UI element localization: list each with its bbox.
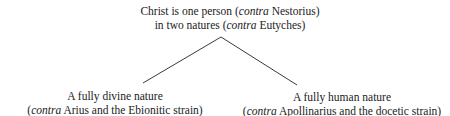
root-line-2: in two natures (contra Eutyches)	[130, 18, 330, 32]
root-node-christ-one-person: Christ is one person (contra Nestorius) …	[130, 4, 330, 32]
human-line-1: A fully human nature	[236, 90, 448, 104]
edge-root-to-divine	[143, 37, 221, 83]
divine-line-2: (contra Arius and the Ebionitic strain)	[4, 103, 226, 116]
divine-line-1: A fully divine nature	[4, 89, 226, 103]
human-line-2: (contra Apollinarius and the docetic str…	[236, 104, 448, 116]
child-node-divine-nature: A fully divine nature (contra Arius and …	[4, 89, 226, 116]
child-node-human-nature: A fully human nature (contra Apollinariu…	[236, 90, 448, 116]
edge-root-to-human	[221, 37, 297, 85]
root-line-1: Christ is one person (contra Nestorius)	[130, 4, 330, 18]
